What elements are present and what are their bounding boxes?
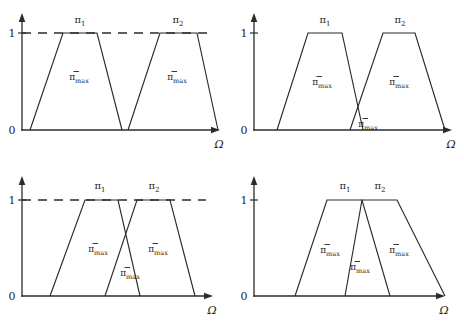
panel-top-right: 1 0 Ω π1 π2 πmax πmax πmax bbox=[232, 0, 464, 163]
label-pi-1-text: π1 bbox=[94, 180, 105, 194]
label-pimax-right-text: πmax bbox=[167, 72, 187, 85]
label-pi-1-text: π1 bbox=[319, 14, 330, 28]
y-axis-arrow-icon bbox=[19, 176, 26, 185]
curve-pi-1 bbox=[295, 200, 390, 296]
label-pimax-right-text: πmax bbox=[389, 77, 409, 90]
label-pimax-overlap: πmax bbox=[120, 268, 140, 281]
x-axis-label-omega: Ω bbox=[213, 138, 223, 151]
label-pi-1: π1 bbox=[319, 14, 330, 28]
label-pimax-right: πmax bbox=[167, 72, 187, 85]
panel-1-plot: 1 0 Ω π1 π2 πmax πmax bbox=[0, 0, 232, 163]
label-pi-2-text: π2 bbox=[172, 14, 183, 28]
x-axis-label-omega: Ω bbox=[206, 304, 216, 317]
label-pimax-left: πmax bbox=[88, 244, 108, 257]
label-pi-1-text: π1 bbox=[339, 180, 350, 194]
label-pimax-right: πmax bbox=[389, 77, 409, 90]
label-pimax-right: πmax bbox=[389, 245, 409, 258]
y-tick-label-zero: 0 bbox=[241, 290, 248, 303]
label-pi-1-text: π1 bbox=[74, 14, 85, 28]
label-pi-2-text: π2 bbox=[374, 180, 385, 194]
x-axis-label-omega: Ω bbox=[438, 304, 448, 317]
panel-grid: 1 0 Ω π1 π2 πmax πmax bbox=[0, 0, 464, 325]
label-pi-1: π1 bbox=[94, 180, 105, 194]
label-pimax-left-text: πmax bbox=[69, 72, 89, 85]
y-axis-arrow-icon bbox=[251, 176, 258, 185]
panel-top-left: 1 0 Ω π1 π2 πmax πmax bbox=[0, 0, 232, 163]
label-pi-2-text: π2 bbox=[394, 14, 405, 28]
panel-3-plot: 1 0 Ω π1 π2 πmax πmax πmax bbox=[0, 163, 232, 325]
label-pi-2: π2 bbox=[394, 14, 405, 28]
y-axis-arrow-icon bbox=[251, 13, 258, 22]
label-pimax-left: πmax bbox=[312, 77, 332, 90]
label-pimax-right: πmax bbox=[148, 244, 168, 257]
panel-bottom-left: 1 0 Ω π1 π2 πmax πmax πmax bbox=[0, 163, 232, 325]
y-tick-label-one: 1 bbox=[9, 27, 16, 40]
panel-bottom-right: 1 0 Ω π1 π2 πmax πmax πmax bbox=[232, 163, 464, 325]
label-pimax-left-text: πmax bbox=[320, 245, 340, 258]
x-axis-arrow-icon bbox=[211, 127, 220, 134]
label-pi-2: π2 bbox=[148, 180, 159, 194]
label-pi-1: π1 bbox=[339, 180, 350, 194]
label-pi-2-text: π2 bbox=[148, 180, 159, 194]
y-tick-label-one: 1 bbox=[241, 194, 248, 207]
label-pi-2: π2 bbox=[172, 14, 183, 28]
label-pi-1: π1 bbox=[74, 14, 85, 28]
x-axis-label-omega: Ω bbox=[445, 138, 455, 151]
label-pimax-overlap-text: πmax bbox=[120, 268, 140, 281]
y-axis-arrow-icon bbox=[19, 13, 26, 22]
label-pimax-right-text: πmax bbox=[148, 244, 168, 257]
label-pimax-left-text: πmax bbox=[88, 244, 108, 257]
y-tick-label-zero: 0 bbox=[9, 124, 16, 137]
y-tick-label-one: 1 bbox=[241, 27, 248, 40]
label-pimax-overlap: πmax bbox=[350, 262, 370, 275]
y-tick-label-zero: 0 bbox=[241, 124, 248, 137]
label-pi-2: π2 bbox=[374, 180, 385, 194]
y-tick-label-one: 1 bbox=[9, 194, 16, 207]
label-pimax-left-text: πmax bbox=[312, 77, 332, 90]
x-axis-arrow-icon bbox=[204, 293, 213, 300]
figure-root: 1 0 Ω π1 π2 πmax πmax bbox=[0, 0, 464, 325]
label-pimax-left: πmax bbox=[69, 72, 89, 85]
panel-4-plot: 1 0 Ω π1 π2 πmax πmax πmax bbox=[232, 163, 464, 325]
panel-2-plot: 1 0 Ω π1 π2 πmax πmax πmax bbox=[232, 0, 464, 163]
label-pimax-overlap-text: πmax bbox=[350, 262, 370, 275]
y-tick-label-zero: 0 bbox=[9, 290, 16, 303]
label-pimax-right-text: πmax bbox=[389, 245, 409, 258]
label-pimax-left: πmax bbox=[320, 245, 340, 258]
